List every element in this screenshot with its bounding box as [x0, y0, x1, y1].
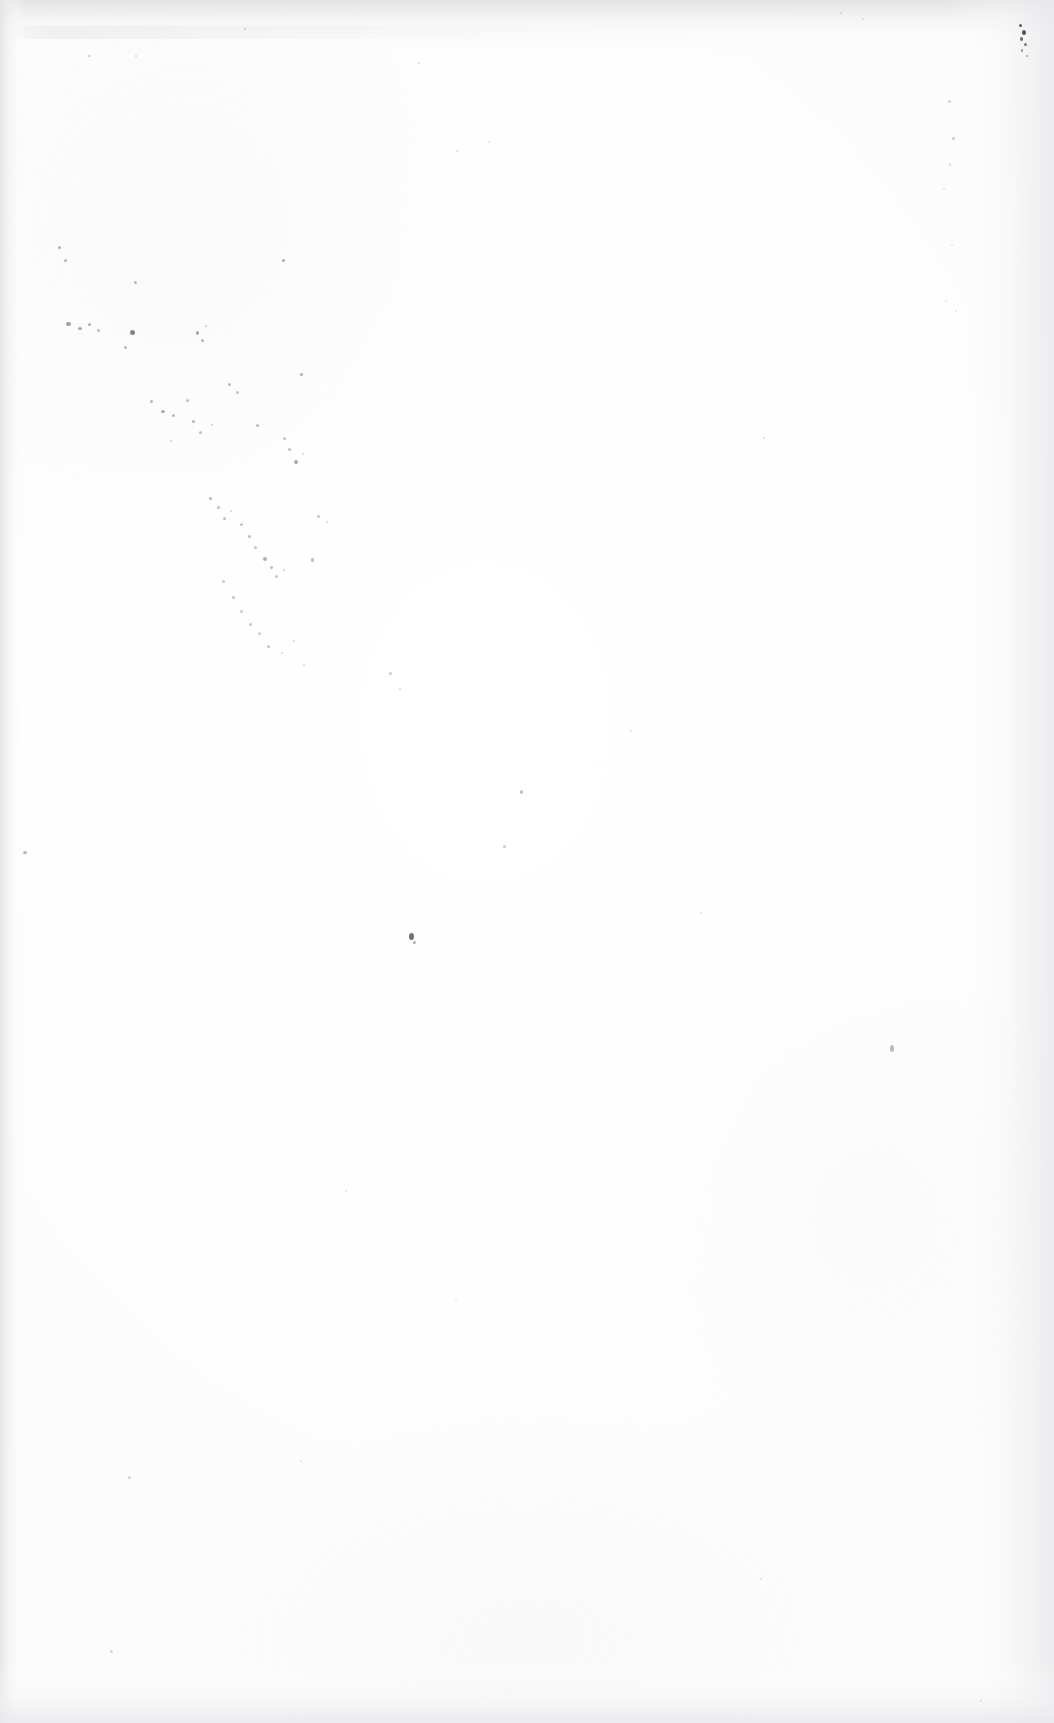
scanned-page: Blank scanned page [0, 0, 1054, 1723]
paper-surface [0, 0, 1054, 1723]
